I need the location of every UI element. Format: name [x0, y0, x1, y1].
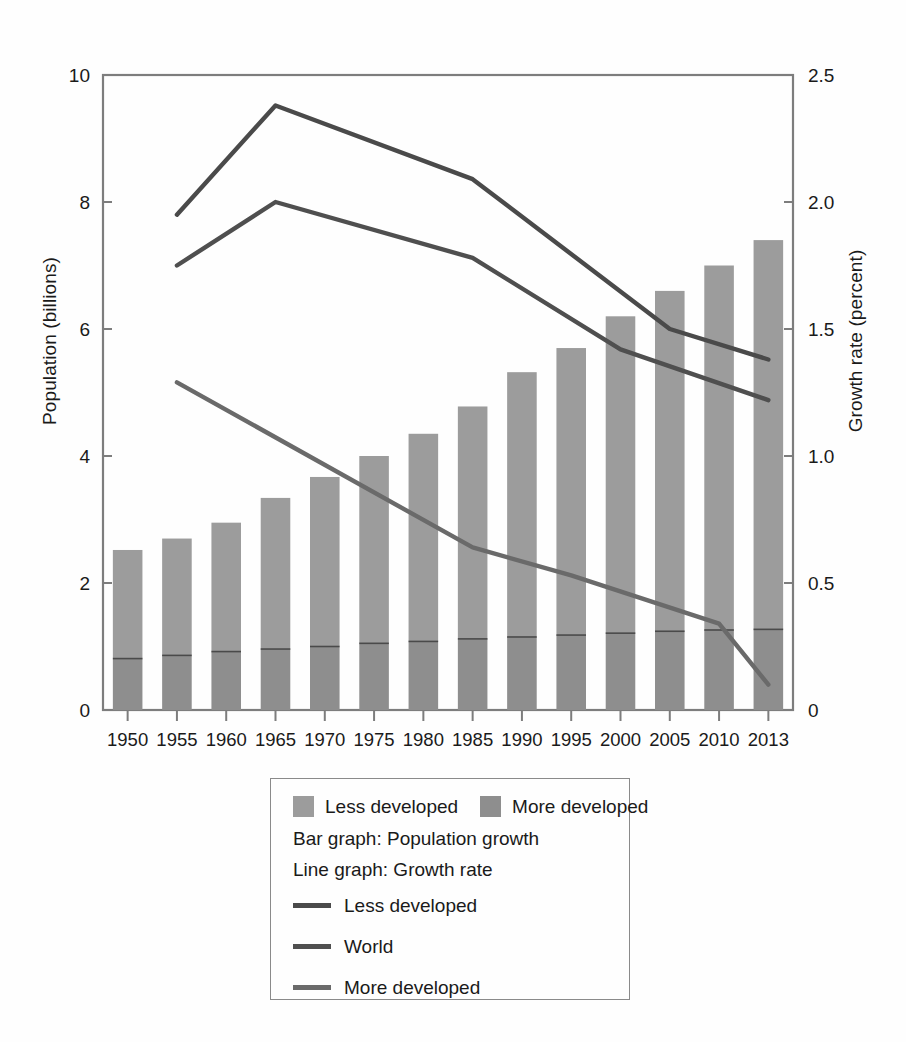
x-tick-label: 2013 [748, 729, 789, 750]
population-growth-chart: Population (billions) Growth rate (perce… [0, 0, 906, 1042]
legend-line-label-less-developed: Less developed [344, 896, 477, 915]
legend-line-swatch-more-developed [293, 985, 331, 990]
x-tick-label: 1990 [501, 729, 542, 750]
legend-line-swatch-world [293, 944, 331, 949]
legend-line-label-world: World [344, 937, 393, 956]
bar-segment-more-developed [556, 635, 586, 710]
legend-line-item-less-developed: Less developed [271, 885, 629, 926]
legend-swatch-more-developed [480, 796, 501, 817]
bar-segment-more-developed [211, 652, 241, 710]
y-tick-label-left: 2 [79, 573, 90, 594]
x-tick-label: 2000 [600, 729, 641, 750]
bar-segment-less-developed [458, 406, 488, 638]
y-tick-label-left: 6 [79, 319, 90, 340]
x-tick-label: 1975 [353, 729, 394, 750]
plot-area: 024681000.51.01.52.02.519501955196019651… [0, 0, 906, 770]
x-tick-label: 1955 [156, 729, 197, 750]
y-tick-label-right: 0 [808, 700, 819, 721]
chart-legend: Less developed More developed Bar graph:… [270, 778, 630, 1000]
x-tick-label: 1985 [452, 729, 493, 750]
y-tick-label-right: 2.0 [808, 192, 834, 213]
legend-swatch-row: Less developed More developed [271, 791, 629, 821]
legend-line-label-more-developed: More developed [344, 978, 480, 997]
bar-segment-more-developed [458, 639, 488, 710]
bar-segment-less-developed [162, 539, 192, 656]
legend-label-more-developed: More developed [512, 797, 648, 816]
legend-swatch-less-developed [293, 796, 314, 817]
bar-segment-less-developed [310, 477, 340, 647]
bar-segment-more-developed [359, 643, 389, 710]
y-tick-label-right: 1.5 [808, 319, 834, 340]
x-tick-label: 2010 [698, 729, 739, 750]
bar-segment-less-developed [754, 240, 784, 629]
legend-note-line-graph: Line graph: Growth rate [271, 854, 629, 885]
y-tick-label-left: 4 [79, 446, 90, 467]
bar-segment-more-developed [409, 641, 439, 710]
bar-segment-less-developed [704, 266, 734, 630]
bar-segment-less-developed [261, 498, 291, 649]
bar-segment-less-developed [409, 434, 439, 642]
y-tick-label-left: 10 [69, 65, 90, 86]
legend-line-item-more-developed: More developed [271, 967, 629, 1008]
bar-segment-less-developed [211, 523, 241, 652]
bar-segment-more-developed [113, 659, 143, 710]
x-tick-label: 2005 [649, 729, 690, 750]
legend-note-bar-graph: Bar graph: Population growth [271, 823, 629, 854]
x-tick-label: 1960 [206, 729, 247, 750]
legend-line-swatch-less-developed [293, 903, 331, 908]
bar-segment-less-developed [606, 316, 636, 633]
bar-segment-more-developed [704, 630, 734, 710]
y-tick-label-right: 1.0 [808, 446, 834, 467]
legend-line-item-world: World [271, 926, 629, 967]
bar-segment-more-developed [261, 649, 291, 710]
bar-segment-less-developed [556, 348, 586, 635]
y-tick-label-right: 2.5 [808, 65, 834, 86]
bar-segment-more-developed [162, 655, 192, 710]
x-tick-label: 1980 [403, 729, 444, 750]
bar-segment-less-developed [507, 372, 537, 637]
bar-segment-less-developed [113, 550, 143, 659]
bar-segment-more-developed [310, 647, 340, 711]
bar-segment-less-developed [359, 456, 389, 643]
y-tick-label-right: 0.5 [808, 573, 834, 594]
bar-segment-more-developed [655, 631, 685, 710]
legend-label-less-developed: Less developed [325, 797, 458, 816]
x-tick-label: 1950 [107, 729, 148, 750]
y-tick-label-left: 8 [79, 192, 90, 213]
x-tick-label: 1965 [255, 729, 296, 750]
x-tick-label: 1995 [551, 729, 592, 750]
y-tick-label-left: 0 [79, 700, 90, 721]
bar-segment-more-developed [606, 633, 636, 710]
bar-segment-more-developed [507, 637, 537, 710]
x-tick-label: 1970 [304, 729, 345, 750]
bar-segment-less-developed [655, 291, 685, 631]
